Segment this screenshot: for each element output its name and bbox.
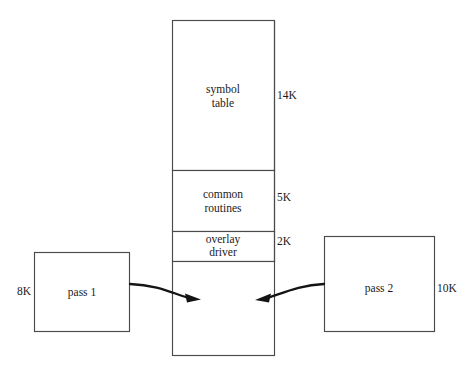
- segment-overlay-driver-label-line1: overlay: [206, 233, 241, 246]
- segment-overlay-driver-label-line2: driver: [209, 246, 237, 258]
- diagram-canvas: symbol table common routines overlay dri…: [0, 0, 473, 377]
- size-label-overlay-driver: 2K: [277, 235, 292, 247]
- size-label-pass-2: 10K: [437, 282, 458, 294]
- pass-1-box: pass 1: [35, 253, 130, 332]
- segment-symbol-table-label-line1: symbol: [206, 83, 240, 96]
- segment-pass-area: [173, 262, 275, 356]
- overlay-memory-diagram: symbol table common routines overlay dri…: [0, 0, 473, 377]
- memory-column: symbol table common routines overlay dri…: [173, 21, 275, 356]
- size-label-pass-1: 8K: [17, 285, 32, 297]
- segment-common-routines-label-line2: routines: [204, 202, 242, 214]
- pass2-to-memory-arrow-shaft: [269, 284, 324, 298]
- pass-2-label: pass 2: [365, 282, 394, 295]
- size-label-symbol-table: 14K: [277, 89, 298, 101]
- size-label-common-routines: 5K: [277, 191, 292, 203]
- segment-symbol-table: [173, 21, 275, 171]
- pass-2-box: pass 2: [325, 237, 435, 332]
- segment-symbol-table-label-line2: table: [212, 97, 234, 109]
- segment-common-routines: [173, 171, 275, 232]
- pass-1-label: pass 1: [68, 286, 97, 299]
- segment-common-routines-label-line1: common: [203, 188, 243, 200]
